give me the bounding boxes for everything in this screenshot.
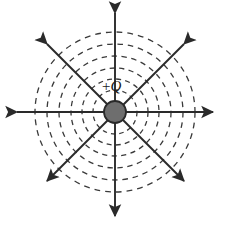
point-charge (104, 101, 126, 123)
electric-field-diagram (0, 0, 227, 228)
figure-root: +Q (0, 0, 227, 228)
charge-label: +Q (101, 79, 121, 94)
